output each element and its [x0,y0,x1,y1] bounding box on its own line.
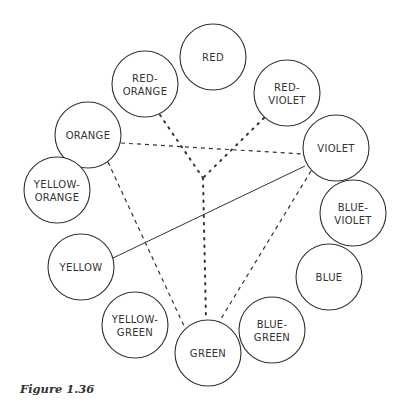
circle-yellow: YELLOW [48,234,114,300]
circle-label: GREEN [254,332,290,343]
circle-label: ORANGE [66,130,111,141]
figure-caption: Figure 1.36 [19,382,94,396]
connection-yellow-violet [113,166,305,258]
circle-label: YELLOW [59,262,103,273]
circle-blue: BLUE [296,244,362,310]
circle-label: VIOLET [268,95,306,106]
circle-label: YELLOW- [33,179,80,190]
color-wheel-diagram: REDRED-ORANGERED-VIOLETORANGEVIOLETYELLO… [0,0,412,410]
circle-red: RED [180,24,246,90]
circle-blue-violet: BLUE-VIOLET [320,180,386,246]
circle-red-violet: RED-VIOLET [254,60,320,126]
circle-yellow-orange: YELLOW-ORANGE [24,157,90,223]
circle-label: RED- [132,73,158,84]
circle-green: GREEN [175,320,241,386]
circle-red-orange: RED-ORANGE [112,51,178,117]
connection-hub-green [203,178,206,320]
circle-label: BLUE- [257,319,288,330]
circle-label: YELLOW- [111,314,158,325]
circle-label: VIOLET [334,215,372,226]
connection-orange-violet [121,143,303,154]
circle-label: VIOLET [317,143,355,154]
circle-violet: VIOLET [303,115,369,181]
circle-label: RED- [274,82,300,93]
circle-label: BLUE- [338,202,369,213]
circle-label: ORANGE [123,86,168,97]
circle-label: ORANGE [35,192,80,203]
circle-yellow-green: YELLOW-GREEN [102,292,168,358]
connection-red-orange-hub [160,115,203,178]
circle-blue-green: BLUE-GREEN [239,297,305,363]
color-circles: REDRED-ORANGERED-VIOLETORANGEVIOLETYELLO… [24,24,386,386]
circle-label: GREEN [117,327,153,338]
circle-label: BLUE [316,272,343,283]
circle-label: RED [202,52,224,63]
circle-label: GREEN [190,348,226,359]
